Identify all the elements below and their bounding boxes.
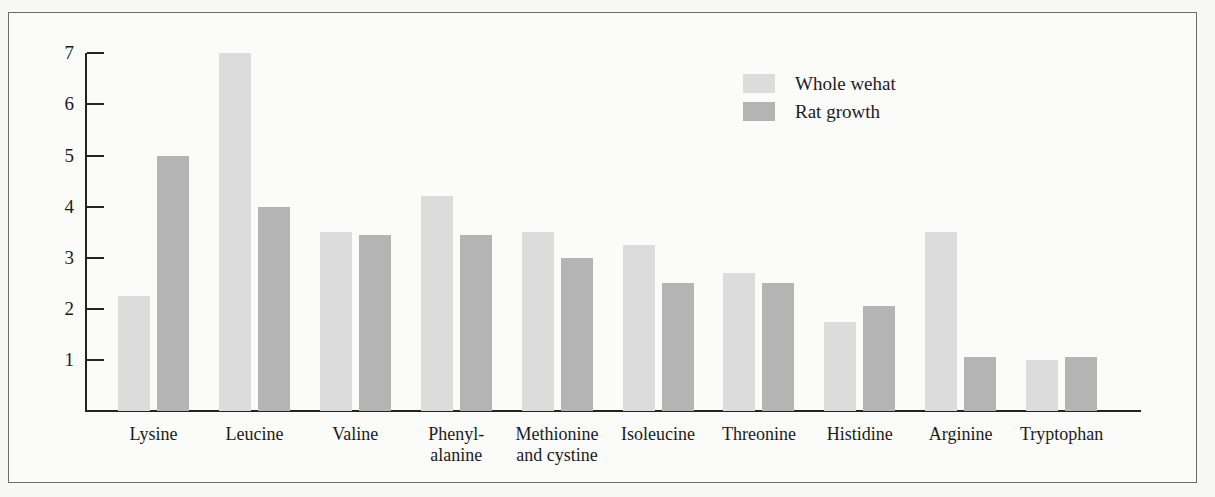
y-axis-tick-label: 3 <box>48 248 74 267</box>
bar-whole-wheat <box>723 273 755 411</box>
bar-rat-growth <box>460 235 492 411</box>
y-axis-tick-label: 5 <box>48 146 74 165</box>
y-axis-tick-label: 4 <box>48 197 74 216</box>
bar-whole-wheat <box>925 232 957 411</box>
bar-rat-growth <box>561 258 593 411</box>
y-axis-tick-label: 1 <box>48 350 74 369</box>
legend-label: Whole wehat <box>795 70 896 98</box>
y-axis-tick <box>87 257 104 259</box>
bar-whole-wheat <box>824 322 856 411</box>
y-axis-tick-label: 6 <box>48 94 74 113</box>
legend-swatch-light <box>743 74 775 93</box>
figure-container: 7654321LysineLeucineValinePhenyl-alanine… <box>0 0 1215 497</box>
y-axis-tick-label: 2 <box>48 299 74 318</box>
x-axis-category-label: Tryptophan <box>997 424 1127 445</box>
y-axis-tick <box>87 359 104 361</box>
bar-whole-wheat <box>1026 360 1058 411</box>
bar-whole-wheat <box>421 196 453 411</box>
legend-swatch-dark <box>743 102 775 121</box>
bar-rat-growth <box>258 207 290 411</box>
y-axis-tick <box>87 155 104 157</box>
bar-whole-wheat <box>118 296 150 411</box>
x-axis-category-label-line: and cystine <box>492 445 622 466</box>
bar-rat-growth <box>762 283 794 411</box>
bar-rat-growth <box>964 357 996 411</box>
x-axis-category-label-line: Tryptophan <box>997 424 1127 445</box>
y-axis-tick <box>87 206 104 208</box>
bar-rat-growth <box>863 306 895 411</box>
bar-whole-wheat <box>522 232 554 411</box>
bar-chart-plot-area: 7654321LysineLeucineValinePhenyl-alanine… <box>0 0 1215 497</box>
legend-label: Rat growth <box>795 98 880 126</box>
bar-rat-growth <box>1065 357 1097 411</box>
bar-whole-wheat <box>623 245 655 411</box>
y-axis-tick-label: 7 <box>48 43 74 62</box>
y-axis-tick <box>87 308 104 310</box>
bar-rat-growth <box>662 283 694 411</box>
bar-whole-wheat <box>320 232 352 411</box>
bar-rat-growth <box>157 156 189 412</box>
bar-whole-wheat <box>219 53 251 411</box>
y-axis-tick <box>87 52 104 54</box>
y-axis-tick <box>87 103 104 105</box>
bar-rat-growth <box>359 235 391 411</box>
